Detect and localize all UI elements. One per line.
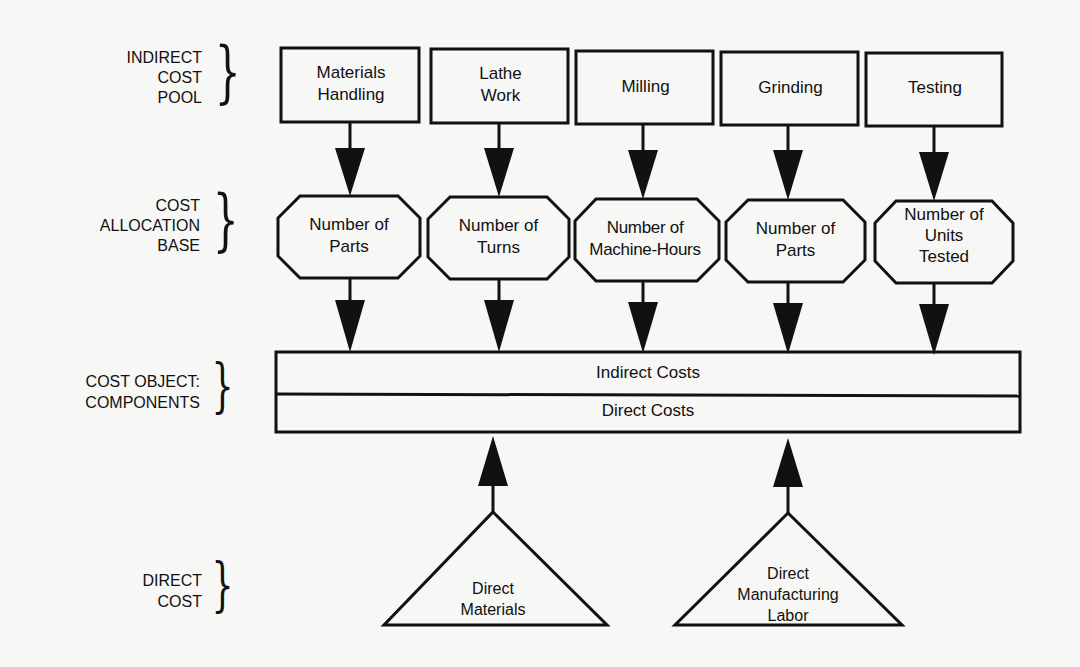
base-number-of-turns: Number ofTurns (428, 215, 569, 259)
pool-testing: Testing (866, 77, 1004, 99)
arrow-down-icon (484, 300, 514, 352)
brace-icon: } (211, 556, 233, 614)
label-direct-cost: DIRECT COST (142, 570, 202, 612)
direct-manufacturing-labor-label: DirectManufacturingLabor (718, 563, 858, 626)
arrow-down-icon (773, 303, 803, 354)
direct-costs-label: Direct Costs (276, 400, 1020, 422)
arrow-down-icon (919, 152, 949, 201)
arrow-up-icon (773, 438, 803, 487)
brace-icon: } (215, 38, 241, 106)
direct-materials-label: DirectMaterials (423, 578, 563, 620)
pool-grinding: Grinding (721, 77, 860, 99)
arrow-up-icon (478, 436, 508, 486)
base-number-of-units-tested: Number ofUnitsTested (875, 204, 1013, 267)
arrow-down-icon (628, 150, 658, 199)
arrow-down-icon (335, 148, 365, 196)
arrow-down-icon (919, 304, 949, 355)
label-cost-allocation-base: COST ALLOCATION BASE (100, 196, 200, 256)
pool-materials-handling: MaterialsHandling (281, 62, 421, 106)
brace-icon: } (211, 357, 233, 415)
label-cost-object: COST OBJECT: COMPONENTS (85, 371, 200, 413)
arrow-down-icon (773, 150, 803, 200)
pool-lathe-work: LatheWork (431, 63, 570, 107)
arrow-down-icon (628, 302, 658, 353)
base-number-of-machine-hours: Number ofMachine-Hours (570, 217, 720, 261)
base-number-of-parts-1: Number ofParts (278, 214, 420, 258)
arrow-down-icon (335, 300, 365, 352)
base-number-of-parts-2: Number ofParts (726, 218, 865, 262)
pool-milling: Milling (576, 76, 715, 98)
cost-object-divider (276, 394, 1020, 396)
label-indirect-cost-pool: INDIRECT COST POOL (126, 48, 202, 108)
brace-icon: } (213, 186, 239, 254)
indirect-costs-label: Indirect Costs (276, 362, 1020, 384)
arrow-down-icon (484, 148, 514, 197)
